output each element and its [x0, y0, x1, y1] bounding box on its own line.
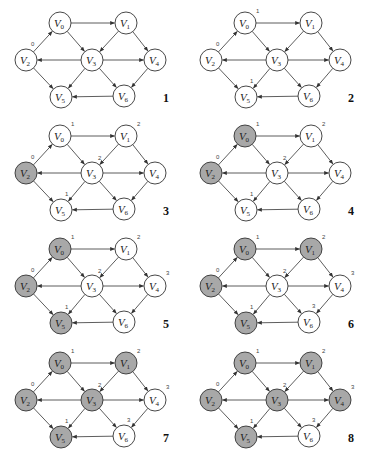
node-v2: V20: [200, 41, 222, 71]
distance-label: 1: [65, 304, 69, 310]
edge-v3-v6: [284, 181, 301, 200]
node-v1: V12: [115, 348, 141, 374]
distance-label: 2: [283, 382, 287, 388]
edge-v0-v3: [67, 371, 84, 391]
distance-label: 2: [137, 234, 141, 240]
edge-v6-v5: [72, 436, 113, 437]
node-v5: V5: [50, 86, 72, 108]
distance-label: 0: [31, 41, 35, 47]
distance-label: 3: [351, 384, 355, 390]
distance-label: 2: [98, 155, 102, 161]
node-v2: V20: [15, 267, 37, 297]
node-v6: V6: [113, 198, 135, 220]
node-v4: V43: [144, 384, 170, 411]
node-v0: V01: [234, 348, 260, 374]
node-v2: V20: [200, 267, 222, 297]
graph-svg: V01V12V20V32V43V51V63: [185, 340, 365, 452]
distance-label: 1: [256, 348, 260, 354]
distance-label: 3: [166, 270, 170, 276]
edge-v3-v6: [99, 68, 116, 87]
node-v6: V6: [113, 311, 135, 333]
edge-v2-v0: [218, 31, 237, 51]
node-v4: V43: [329, 270, 355, 297]
node-v4: V4: [144, 162, 166, 184]
edge-v2-v0: [218, 257, 237, 277]
distance-label: 2: [322, 348, 326, 354]
edge-v3-v6: [284, 68, 301, 87]
node-v3: V32: [266, 382, 288, 411]
edge-v0-v3: [252, 31, 269, 51]
node-v3: V3: [266, 49, 288, 71]
edge-v4-v6: [317, 408, 333, 427]
distance-label: 2: [283, 268, 287, 274]
distance-label: 1: [250, 304, 254, 310]
distance-label: 1: [65, 191, 69, 197]
graph-svg: V01V12V20V32V4V51V6: [0, 113, 180, 225]
graph-panel-step-5: V01V12V20V32V43V51V65: [0, 226, 180, 338]
edge-v1-v4: [318, 372, 333, 391]
node-v1: V12: [300, 348, 326, 374]
distance-label: 3: [127, 417, 131, 423]
distance-label: 2: [322, 121, 326, 127]
edge-v2-v0: [33, 144, 52, 164]
node-v5: V51: [235, 418, 257, 448]
distance-label: 2: [98, 382, 102, 388]
edge-v1-v3: [285, 31, 304, 51]
edge-v1-v4: [318, 145, 333, 164]
node-v5: V51: [50, 191, 72, 221]
edge-v2-v5: [34, 294, 54, 315]
edge-v3-v6: [99, 408, 116, 427]
edge-v6-v5: [257, 96, 298, 97]
step-number: 4: [348, 204, 354, 219]
step-number: 1: [163, 91, 169, 106]
edge-v0-v3: [67, 31, 84, 51]
distance-label: 3: [351, 270, 355, 276]
node-v4: V4: [144, 49, 166, 71]
node-v3: V32: [266, 155, 288, 184]
node-v4: V43: [144, 270, 170, 297]
distance-label: 1: [250, 418, 254, 424]
graph-svg: V0V1V20V3V4V5V6: [0, 0, 180, 112]
node-v3: V32: [81, 155, 103, 184]
edge-v3-v5: [68, 181, 85, 201]
distance-label: 1: [71, 234, 75, 240]
node-v0: V01: [234, 8, 260, 34]
edge-v3-v5: [253, 294, 270, 314]
distance-label: 2: [98, 268, 102, 274]
step-number: 6: [348, 317, 354, 332]
node-v2: V20: [15, 154, 37, 184]
edge-v4-v6: [132, 294, 148, 313]
node-v2: V20: [200, 381, 222, 411]
edge-v4-v6: [317, 294, 333, 313]
node-v5: V51: [235, 304, 257, 334]
step-number: 3: [163, 204, 169, 219]
edge-v1-v3: [285, 371, 304, 391]
edge-v3-v5: [253, 68, 270, 88]
node-v0: V01: [234, 234, 260, 260]
edge-v1-v3: [285, 257, 304, 277]
node-v6: V63: [298, 303, 320, 333]
node-v0: V01: [49, 121, 75, 147]
distance-label: 2: [137, 121, 141, 127]
step-number: 5: [163, 317, 169, 332]
distance-label: 0: [31, 381, 35, 387]
edge-v0-v3: [252, 257, 269, 277]
distance-label: 1: [256, 234, 260, 240]
node-v2: V20: [200, 154, 222, 184]
node-v6: V63: [298, 417, 320, 447]
graph-panel-step-6: V01V12V20V32V43V51V636: [185, 226, 365, 338]
graph-panel-step-2: V01V1V20V3V4V51V62: [185, 0, 365, 112]
edge-v4-v6: [132, 408, 148, 427]
graph-svg: V01V12V20V32V43V51V63: [185, 226, 365, 338]
graph-svg: V01V1V20V3V4V51V6: [185, 0, 365, 112]
node-v0: V01: [234, 121, 260, 147]
edge-v0-v3: [67, 257, 84, 277]
edge-v3-v6: [284, 408, 301, 427]
edge-v2-v5: [34, 68, 54, 89]
node-v3: V32: [81, 382, 103, 411]
distance-label: 1: [71, 348, 75, 354]
node-v2: V20: [15, 41, 37, 71]
edge-v2-v5: [219, 68, 239, 89]
node-v5: V51: [235, 78, 257, 108]
edge-v1-v4: [133, 145, 148, 164]
